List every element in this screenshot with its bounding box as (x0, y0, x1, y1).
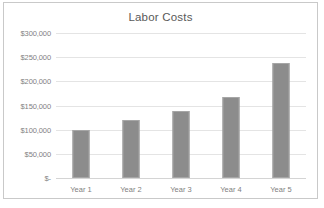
bar-slot: Year 1 (56, 33, 106, 178)
y-axis-tick-label: $50,000 (25, 149, 51, 158)
x-axis-tick-label: Year 5 (270, 185, 291, 194)
bar-slot: Year 3 (156, 33, 206, 178)
gridline (56, 178, 306, 179)
bar[interactable] (273, 63, 290, 178)
bar[interactable] (173, 111, 190, 178)
bar[interactable] (123, 120, 140, 178)
y-axis-tick-label: $300,000 (21, 29, 51, 38)
bar-series: Year 1Year 2Year 3Year 4Year 5 (56, 33, 306, 178)
y-axis-tick-label: $- (45, 174, 51, 183)
bar[interactable] (223, 97, 240, 178)
bar-slot: Year 4 (206, 33, 256, 178)
y-axis-tick-label: $100,000 (21, 125, 51, 134)
x-axis-tick-label: Year 2 (120, 185, 141, 194)
y-axis-tick-label: $150,000 (21, 101, 51, 110)
bar-slot: Year 5 (256, 33, 306, 178)
chart-frame: Labor Costs $300,000$250,000$200,000$150… (3, 2, 318, 199)
plot-area: $300,000$250,000$200,000$150,000$100,000… (56, 33, 306, 178)
bar-slot: Year 2 (106, 33, 156, 178)
y-axis-tick-label: $200,000 (21, 77, 51, 86)
x-axis-tick-label: Year 3 (170, 185, 191, 194)
bar[interactable] (73, 130, 90, 178)
x-axis-tick-label: Year 4 (220, 185, 241, 194)
chart-title: Labor Costs (4, 11, 317, 23)
x-axis-tick-label: Year 1 (70, 185, 91, 194)
y-axis-tick-label: $250,000 (21, 53, 51, 62)
